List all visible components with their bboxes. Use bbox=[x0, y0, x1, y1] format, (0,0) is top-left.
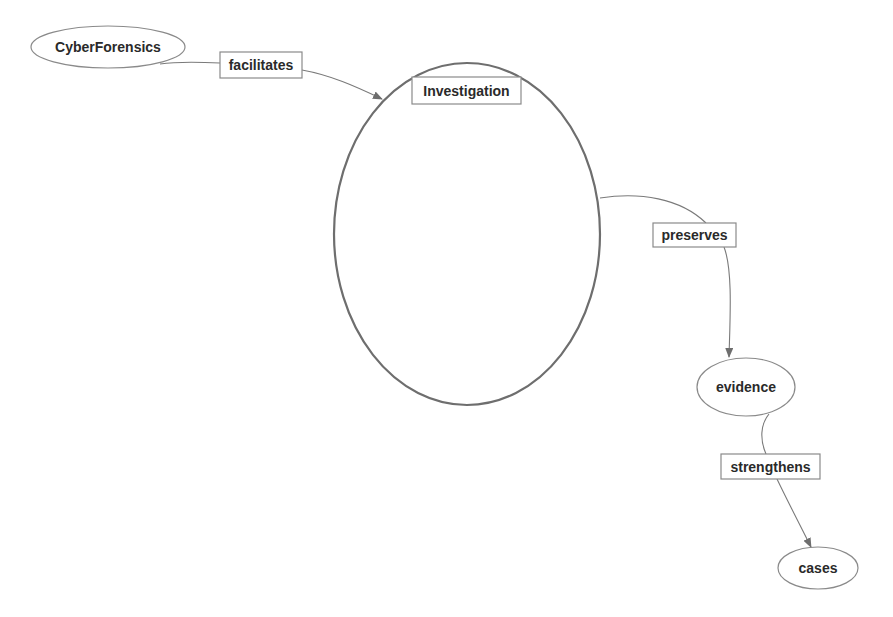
edge-line-strengthens-cases bbox=[777, 479, 811, 547]
concept-map-canvas: CyberForensics Investigation evidence ca… bbox=[0, 0, 893, 617]
node-evidence-label: evidence bbox=[716, 379, 776, 395]
edge-preserves bbox=[600, 196, 730, 357]
edge-label-facilitates[interactable]: facilitates bbox=[220, 52, 302, 78]
edge-label-strengthens[interactable]: strengthens bbox=[721, 454, 820, 479]
edge-line-evidence-strengthens bbox=[762, 414, 769, 454]
edge-line-cyberforensics-facilitates bbox=[160, 62, 220, 64]
edge-line-facilitates-investigation bbox=[302, 70, 382, 99]
node-investigation[interactable]: Investigation bbox=[334, 63, 600, 405]
node-cyberforensics-label: CyberForensics bbox=[55, 39, 161, 55]
edge-label-preserves[interactable]: preserves bbox=[653, 223, 736, 247]
edge-label-preserves-text: preserves bbox=[661, 227, 727, 243]
node-investigation-shape bbox=[334, 63, 600, 405]
node-investigation-label: Investigation bbox=[423, 83, 509, 99]
node-evidence[interactable]: evidence bbox=[697, 358, 795, 416]
edge-label-facilitates-text: facilitates bbox=[229, 57, 294, 73]
edge-strengthens bbox=[762, 414, 811, 547]
node-cases-label: cases bbox=[799, 560, 838, 576]
edge-label-strengthens-text: strengthens bbox=[730, 459, 810, 475]
edge-line-preserves-evidence bbox=[724, 247, 730, 357]
node-cyberforensics[interactable]: CyberForensics bbox=[31, 26, 185, 68]
node-cases[interactable]: cases bbox=[778, 547, 858, 589]
edge-line-investigation-preserves bbox=[600, 196, 706, 223]
